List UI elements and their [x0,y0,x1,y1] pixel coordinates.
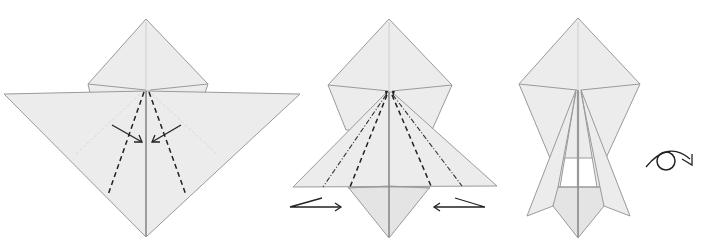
step1-top-flap [88,19,208,93]
turn-over-icon [646,151,692,170]
step-1-figure [4,19,300,237]
step2-wide-triangle [293,92,497,187]
step3-top-flap [519,18,640,158]
origami-diagram [0,0,722,242]
step2-push-arrow-left-icon [290,198,341,211]
step-3-figure [519,18,640,238]
step2-push-arrow-right-icon [434,198,485,211]
step1-main-triangle [4,91,300,237]
step-2-figure [290,19,497,238]
